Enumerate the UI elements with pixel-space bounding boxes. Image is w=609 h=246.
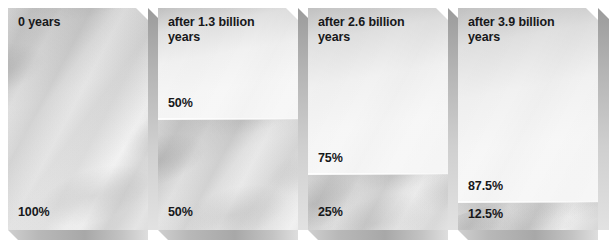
block-front-face [8, 8, 148, 230]
block-time-label: after 3.9 billion years [468, 15, 590, 45]
daughter-zone [308, 174, 448, 230]
block-top-percent-label: 87.5% [468, 179, 503, 193]
block-time-label: after 1.3 billion years [168, 15, 290, 45]
block-top-percent-label: 50% [168, 96, 193, 110]
block-side-face [598, 8, 609, 230]
block-top-percent-label: 75% [318, 151, 343, 165]
block-time-label: 0 years [18, 15, 140, 30]
decay-block-2: after 2.6 billion years 75% 25% [308, 8, 448, 230]
block-bottom-percent-label: 12.5% [468, 207, 503, 221]
daughter-zone [8, 8, 148, 230]
block-bottom-face [8, 230, 148, 240]
block-bottom-percent-label: 50% [168, 205, 193, 219]
decay-block-0: 0 years 100% [8, 8, 148, 230]
decay-block-1: after 1.3 billion years 50% 50% [158, 8, 298, 230]
block-bottom-percent-label: 25% [318, 205, 343, 219]
block-time-label: after 2.6 billion years [318, 15, 440, 45]
block-bottom-face [458, 230, 598, 240]
block-bottom-face [158, 230, 298, 240]
figure-canvas: 0 years 100% after 1.3 billion years 50%… [0, 0, 609, 246]
block-bottom-face [308, 230, 448, 240]
block-bottom-percent-label: 100% [18, 205, 50, 219]
decay-block-3: after 3.9 billion years 87.5% 12.5% [458, 8, 598, 230]
